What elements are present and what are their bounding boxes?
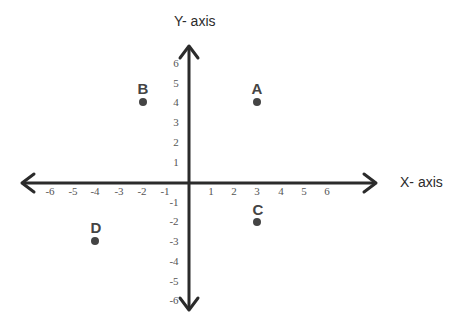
point-b-label: B <box>138 80 149 97</box>
x-tick-label: 3 <box>254 185 260 197</box>
y-tick-label: -1 <box>169 196 178 208</box>
y-tick-label: 4 <box>173 96 179 108</box>
point-d-label: D <box>91 219 102 236</box>
x-tick-label: 2 <box>231 185 237 197</box>
y-tick-label: 5 <box>173 77 179 89</box>
x-tick-label: -3 <box>114 185 123 197</box>
x-tick-label: -1 <box>160 185 169 197</box>
y-tick-label: 6 <box>173 57 179 69</box>
point-a-marker <box>253 98 261 106</box>
y-tick-label: 2 <box>173 136 179 148</box>
y-tick-label: -2 <box>169 215 178 227</box>
point-d-marker <box>91 237 99 245</box>
x-tick-label: 6 <box>324 185 330 197</box>
x-tick-label: -4 <box>90 185 99 197</box>
x-tick-label: -2 <box>137 185 146 197</box>
y-tick-label: -3 <box>169 235 178 247</box>
point-a-label: A <box>252 80 263 97</box>
y-tick-label: 3 <box>173 116 179 128</box>
x-tick-label: 5 <box>301 185 307 197</box>
point-c-label: C <box>253 201 264 218</box>
point-c-marker <box>253 218 261 226</box>
y-tick-label: -4 <box>169 255 178 267</box>
y-tick-label: -6 <box>169 294 178 306</box>
x-tick-label: -6 <box>45 185 54 197</box>
y-axis-title: Y- axis <box>174 13 216 29</box>
x-tick-label: 4 <box>278 185 284 197</box>
coordinate-plane <box>0 0 459 326</box>
y-tick-label: -5 <box>169 275 178 287</box>
x-axis-title: X- axis <box>400 174 443 190</box>
x-tick-label: 1 <box>208 185 214 197</box>
y-tick-label: 1 <box>173 156 179 168</box>
x-tick-label: -5 <box>68 185 77 197</box>
point-b-marker <box>139 98 147 106</box>
